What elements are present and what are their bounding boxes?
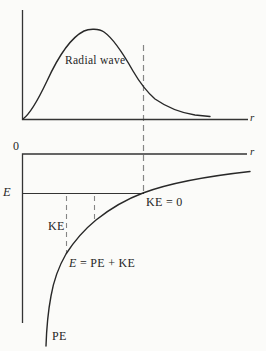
energy-equation-label: E = PE + KE [69,257,135,269]
bottom-plot-axes [23,154,248,323]
radial-wave-label: Radial wave [65,55,125,67]
top-x-axis-label: r [250,112,255,123]
ke-label: KE [48,220,65,232]
energy-equation-rhs: = PE + KE [77,256,136,270]
energy-equation-lhs: E [69,256,77,270]
origin-zero-label: 0 [13,140,19,152]
radial-wave-curve [23,29,210,119]
physics-figure: Radial wave r 0 r E KE = 0 KE E = PE + K… [0,0,266,351]
bottom-x-axis-label: r [250,146,255,157]
figure-canvas [0,0,266,351]
top-plot-axes [23,10,249,120]
pe-label: PE [52,330,67,342]
ke-zero-label: KE = 0 [146,196,183,208]
energy-level-label: E [3,186,11,199]
